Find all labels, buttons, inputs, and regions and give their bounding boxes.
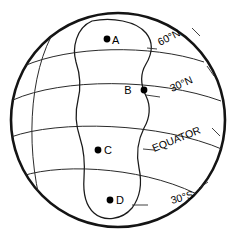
latitude-label-equator: EQUATOR — [150, 123, 202, 153]
point-marker-c — [95, 147, 102, 154]
point-label-b: B — [124, 84, 131, 96]
latitude-arc-60n — [24, 50, 204, 66]
latitude-label-30n: 30°N — [168, 73, 194, 94]
point-label-c: C — [104, 144, 112, 156]
point-marker-a — [104, 36, 111, 43]
leader-line-60n — [192, 28, 200, 36]
globe-diagram: 60°N 30°N EQUATOR 30°S A B C D — [0, 0, 233, 240]
latitude-label-60n: 60°N — [155, 26, 181, 47]
point-label-d: D — [116, 194, 124, 206]
leader-line-equator — [212, 128, 220, 136]
point-label-a: A — [112, 34, 120, 46]
point-marker-b — [141, 87, 148, 94]
leader-line-60n-inner — [147, 48, 157, 49]
point-marker-d — [107, 197, 114, 204]
latitude-label-30s: 30°S — [169, 188, 194, 206]
globe-svg-canvas: 60°N 30°N EQUATOR 30°S A B C D — [0, 0, 233, 240]
leader-line-30n-inner — [146, 95, 160, 97]
